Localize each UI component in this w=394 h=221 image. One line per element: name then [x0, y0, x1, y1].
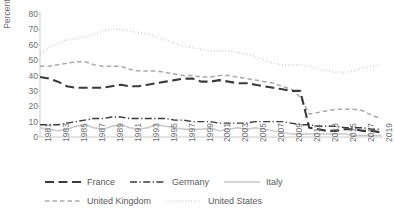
legend-swatch-icon	[44, 177, 82, 187]
legend-swatch-icon	[44, 196, 82, 206]
x-tick-label: 2019	[385, 123, 394, 142]
chart-legend: FranceGermanyItaly United KingdomUnited …	[0, 172, 388, 221]
legend-item-united-states[interactable]: United States	[165, 196, 262, 206]
x-tick-label: 2011	[313, 124, 322, 142]
legend-swatch-icon	[223, 177, 261, 187]
x-tick-label: 1995	[170, 123, 179, 142]
legend-swatch-icon	[129, 177, 167, 187]
series-line-united-states	[40, 29, 381, 72]
x-tick-label: 1985	[80, 123, 89, 142]
x-tick-label: 2005	[259, 123, 268, 142]
legend-item-france[interactable]: France	[44, 177, 115, 187]
x-tick-label: 2017	[367, 123, 376, 142]
x-tick-label: 1981	[44, 123, 53, 142]
legend-row-2: United KingdomUnited States	[0, 191, 388, 210]
x-tick-label: 1987	[98, 123, 107, 142]
x-tick-label: 2007	[277, 123, 286, 142]
x-tick-label: 2013	[331, 123, 340, 142]
x-tick-label: 2015	[349, 123, 358, 142]
legend-swatch-icon	[165, 196, 203, 206]
x-tick-label: 2001	[223, 123, 232, 142]
x-tick-label: 1999	[206, 123, 215, 142]
x-tick-label: 2003	[241, 123, 250, 142]
legend-label: Italy	[266, 177, 283, 187]
series-line-united-kingdom	[40, 62, 381, 119]
legend-item-united-kingdom[interactable]: United Kingdom	[44, 196, 151, 206]
x-tick-label: 2009	[295, 123, 304, 142]
legend-label: France	[87, 177, 115, 187]
legend-label: Germany	[172, 177, 209, 187]
legend-item-germany[interactable]: Germany	[129, 177, 209, 187]
x-tick-label: 1983	[62, 123, 71, 142]
x-tick-label: 1989	[116, 123, 125, 142]
x-tick-label: 1991	[134, 123, 143, 142]
legend-item-italy[interactable]: Italy	[223, 177, 283, 187]
legend-row-1: FranceGermanyItaly	[0, 172, 388, 191]
legend-label: United Kingdom	[87, 196, 151, 206]
x-tick-label: 1993	[152, 123, 161, 142]
legend-label: United States	[208, 196, 262, 206]
x-tick-label: 1997	[188, 123, 197, 142]
